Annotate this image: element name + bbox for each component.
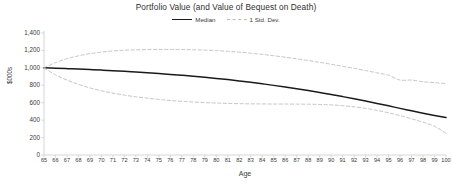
x-tick-label: 97 <box>408 158 414 164</box>
x-tick-label: 86 <box>282 158 288 164</box>
x-axis-label: Age <box>44 170 446 177</box>
series-line <box>44 68 446 133</box>
x-axis-ticks: 6566676869707172737475767778798081828384… <box>44 158 446 170</box>
x-tick-label: 95 <box>385 158 391 164</box>
x-tick-label: 94 <box>374 158 380 164</box>
x-tick-label: 82 <box>236 158 242 164</box>
x-tick-label: 67 <box>64 158 70 164</box>
x-tick-label: 66 <box>52 158 58 164</box>
x-tick-label: 85 <box>271 158 277 164</box>
x-tick-label: 68 <box>75 158 81 164</box>
x-tick-label: 80 <box>213 158 219 164</box>
x-tick-label: 75 <box>156 158 162 164</box>
x-tick-label: 65 <box>41 158 47 164</box>
x-tick-label: 72 <box>121 158 127 164</box>
x-tick-label: 99 <box>431 158 437 164</box>
x-tick-label: 87 <box>294 158 300 164</box>
x-tick-label: 91 <box>340 158 346 164</box>
x-tick-label: 77 <box>179 158 185 164</box>
x-tick-label: 70 <box>98 158 104 164</box>
series-line <box>44 49 446 83</box>
x-tick-label: 79 <box>202 158 208 164</box>
x-tick-label: 100 <box>441 158 450 164</box>
x-tick-label: 81 <box>225 158 231 164</box>
x-tick-label: 84 <box>259 158 265 164</box>
x-tick-label: 93 <box>362 158 368 164</box>
x-tick-label: 90 <box>328 158 334 164</box>
x-tick-label: 92 <box>351 158 357 164</box>
series-line <box>44 68 446 118</box>
x-tick-label: 96 <box>397 158 403 164</box>
x-tick-label: 98 <box>420 158 426 164</box>
x-tick-label: 89 <box>317 158 323 164</box>
x-tick-label: 73 <box>133 158 139 164</box>
x-tick-label: 69 <box>87 158 93 164</box>
x-tick-label: 78 <box>190 158 196 164</box>
chart-container: Portfolio Value (and Value of Bequest on… <box>0 0 452 187</box>
x-tick-label: 76 <box>167 158 173 164</box>
x-tick-label: 83 <box>248 158 254 164</box>
x-tick-label: 74 <box>144 158 150 164</box>
x-tick-label: 88 <box>305 158 311 164</box>
x-tick-label: 71 <box>110 158 116 164</box>
